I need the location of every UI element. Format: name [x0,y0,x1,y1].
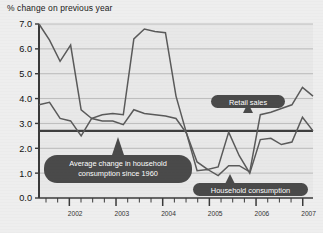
callout-household-label: Household consumption [211,186,290,195]
x-tick-label: 2003 [115,210,130,217]
y-tick-label: 5.0 [19,69,32,79]
chart-plot: 0.01.02.03.04.05.06.07.0 200220032004200… [0,0,323,233]
x-tick-label: 2005 [208,210,223,217]
chart-container: % change on previous year 0.01.02.03.04.… [0,0,323,233]
y-axis-labels: 0.01.02.03.04.05.06.07.0 [19,19,32,203]
x-tick-label: 2006 [255,210,270,217]
x-tick-label: 2002 [68,210,83,217]
y-tick-label: 2.0 [19,144,32,154]
y-tick-label: 6.0 [19,44,32,54]
callout-average-line2: consumption since 1960 [78,169,158,178]
y-tick-label: 7.0 [19,19,32,29]
y-tick-label: 3.0 [19,119,32,129]
y-tick-label: 4.0 [19,94,32,104]
y-tick-label: 1.0 [19,169,32,179]
callout-retail-label: Retail sales [229,98,268,107]
callout-average-line1: Average change in household [69,159,167,168]
x-axis-labels: 200220032004200520062007 [68,210,316,217]
x-tick-label: 2007 [301,210,316,217]
y-tick-label: 0.0 [19,193,32,203]
x-tick-label: 2004 [161,210,176,217]
x-axis-ticks [46,198,303,206]
